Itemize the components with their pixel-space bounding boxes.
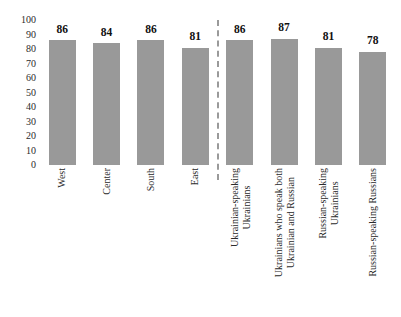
y-axis-tick-label: 0 xyxy=(31,160,36,170)
bar xyxy=(93,43,120,165)
bar-value-label: 86 xyxy=(226,24,253,36)
x-axis-label-line: East xyxy=(190,168,201,185)
x-axis-label-slot: Ukrainians who speak bothUkrainian and R… xyxy=(262,168,306,317)
y-axis-tick-label: 10 xyxy=(26,146,36,156)
bar xyxy=(182,48,209,165)
x-axis-label-slot: Center xyxy=(84,168,128,317)
x-axis-label: East xyxy=(190,168,202,185)
bar-value-label: 87 xyxy=(271,22,298,34)
x-axis-label-line: Ukrainians xyxy=(240,168,252,247)
bar-group: 84 xyxy=(93,20,120,165)
y-axis-tick-label: 70 xyxy=(26,59,36,69)
bar xyxy=(49,40,76,165)
y-axis-tick-label: 90 xyxy=(26,30,36,40)
y-axis-tick-label: 30 xyxy=(26,117,36,127)
bar-value-label: 81 xyxy=(315,31,342,43)
bar xyxy=(137,40,164,165)
x-axis-label-slot: East xyxy=(173,168,217,317)
bar-value-label: 78 xyxy=(359,35,386,47)
x-axis-label-line: Ukrainians xyxy=(328,168,340,239)
bar xyxy=(226,40,253,165)
bar-group: 81 xyxy=(182,20,209,165)
y-axis-tick-label: 100 xyxy=(21,15,36,25)
bar-group: 86 xyxy=(137,20,164,165)
bar-group: 87 xyxy=(271,20,298,165)
bar-group: 86 xyxy=(226,20,253,165)
y-axis-tick-label: 40 xyxy=(26,102,36,112)
x-axis-label-line: Russian-speaking Russians xyxy=(367,168,378,277)
x-axis-label: Ukrainian-speakingUkrainians xyxy=(228,168,251,247)
x-axis-label: West xyxy=(56,168,68,188)
x-axis-label-line: Center xyxy=(101,168,112,195)
x-axis-label-slot: South xyxy=(129,168,173,317)
bar-value-label: 81 xyxy=(182,31,209,43)
bar-value-label: 86 xyxy=(49,24,76,36)
bar-value-label: 84 xyxy=(93,27,120,39)
bar xyxy=(271,39,298,165)
x-axis-label-line: Ukrainian-speaking xyxy=(228,168,239,247)
x-axis-labels: WestCenterSouthEastUkrainian-speakingUkr… xyxy=(40,168,395,317)
bar-chart: 1009080706050403020100 8684868186878178 … xyxy=(0,0,401,317)
x-axis-label-line: South xyxy=(145,168,156,191)
x-axis-label-slot: Russian-speaking Russians xyxy=(351,168,395,317)
bar-group: 81 xyxy=(315,20,342,165)
x-axis-label-slot: West xyxy=(40,168,84,317)
x-axis-label-line: Ukrainian and Russian xyxy=(284,168,296,277)
x-axis-label: Ukrainians who speak bothUkrainian and R… xyxy=(273,168,296,277)
y-axis-tick-label: 50 xyxy=(26,88,36,98)
x-axis-label: South xyxy=(145,168,157,191)
x-axis-label: Russian-speakingUkrainians xyxy=(317,168,340,239)
x-axis-label: Russian-speaking Russians xyxy=(367,168,379,277)
group-divider-dashed-line xyxy=(217,20,219,180)
bar-value-label: 86 xyxy=(137,24,164,36)
x-axis-label: Center xyxy=(101,168,113,195)
y-axis-tick-label: 20 xyxy=(26,131,36,141)
bar-group: 86 xyxy=(49,20,76,165)
x-axis-label-slot: Ukrainian-speakingUkrainians xyxy=(218,168,262,317)
y-axis: 1009080706050403020100 xyxy=(10,20,36,165)
bar-group: 78 xyxy=(359,20,386,165)
y-axis-tick-label: 60 xyxy=(26,73,36,83)
bar xyxy=(315,48,342,165)
bar xyxy=(359,52,386,165)
x-axis-label-line: Ukrainians who speak both xyxy=(273,168,284,277)
x-axis-label-line: Russian-speaking xyxy=(317,168,328,239)
x-axis-label-slot: Russian-speakingUkrainians xyxy=(306,168,350,317)
x-axis-label-line: West xyxy=(56,168,67,188)
y-axis-tick-label: 80 xyxy=(26,44,36,54)
